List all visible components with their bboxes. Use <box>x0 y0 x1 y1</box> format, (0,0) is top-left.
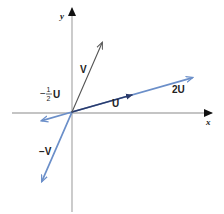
neg-half-u-minus: − <box>40 88 46 99</box>
neg-half-u-numerator: 1 <box>47 86 51 93</box>
vector-diagram: x y V U 2U − 1 2 U −V <box>0 0 224 214</box>
vector-v <box>72 43 102 112</box>
neg-half-u-vector: U <box>53 89 60 100</box>
vector-label-neg-v: −V <box>39 146 52 157</box>
vector-label-neg-half-u: − 1 2 U <box>40 86 60 102</box>
vectors-group <box>42 43 192 181</box>
vector-label-v: V <box>80 64 87 75</box>
neg-half-u-denominator: 2 <box>47 95 51 102</box>
x-axis-label: x <box>205 117 211 127</box>
y-axis-label: y <box>59 11 65 21</box>
vector-label-2u: 2U <box>172 84 185 95</box>
vector-u <box>72 95 132 112</box>
vector-label-u: U <box>112 98 119 109</box>
